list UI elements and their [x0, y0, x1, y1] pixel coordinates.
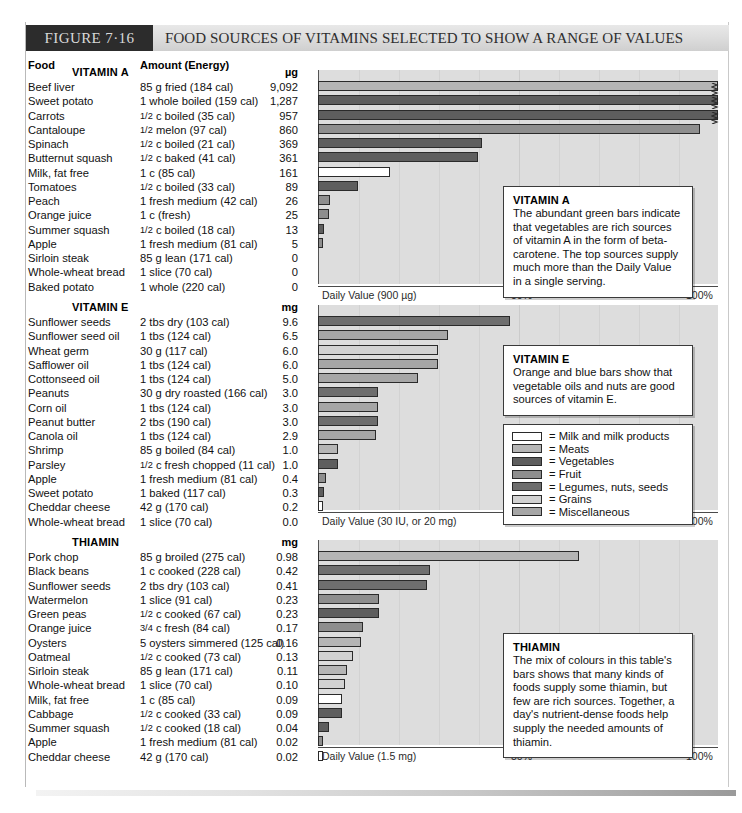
- value-bar: [318, 81, 718, 91]
- value-bar: [318, 373, 418, 383]
- food-name: Shrimp: [28, 443, 63, 457]
- figure-number-tag: FIGURE 7·16: [26, 25, 153, 51]
- food-name: Cheddar cheese: [28, 500, 110, 514]
- callout-title: THIAMIN: [513, 641, 683, 653]
- table-row: Butternut squash1/2 c baked (41 cal)361: [0, 151, 310, 165]
- food-amount: 85 g lean (171 cal): [140, 251, 233, 265]
- food-name: Milk, fat free: [28, 166, 89, 180]
- table-row: Summer squash1/2 c boiled (18 cal)13: [0, 223, 310, 237]
- table-row: Apple1 fresh medium (81 cal)0.02: [0, 735, 310, 749]
- axis-break-marker: [711, 81, 718, 91]
- food-name: Tomatoes: [28, 180, 77, 194]
- nutrient-value: 0.09: [250, 693, 298, 707]
- table-row: Whole-wheat bread1 slice (70 cal)0.0: [0, 515, 310, 529]
- nutrient-value: 0.23: [250, 607, 298, 621]
- table-row: Baked potato1 whole (220 cal)0: [0, 280, 310, 294]
- food-amount: 30 g (117 cal): [140, 344, 208, 358]
- food-name: Sirloin steak: [28, 664, 89, 678]
- callout-box: VITAMIN AThe abundant green bars indicat…: [503, 186, 693, 298]
- legend-label: = Milk and milk products: [549, 430, 669, 442]
- value-bar: [318, 195, 330, 205]
- gridline: [439, 540, 440, 745]
- legend-label: = Meats: [549, 443, 589, 455]
- section-title: THIAMIN: [72, 536, 119, 548]
- food-amount: 1 c (85 cal): [140, 166, 195, 180]
- food-amount: 1/2 c cooked (73 cal): [140, 650, 241, 664]
- legend-swatch-fruit: [512, 470, 542, 479]
- food-name: Sweet potato: [28, 94, 93, 108]
- value-bar: [318, 665, 347, 675]
- food-amount: 85 g fried (184 cal): [140, 80, 233, 94]
- nutrient-value: 0.11: [250, 664, 298, 678]
- value-bar: [318, 167, 390, 177]
- food-name: Peach: [28, 194, 60, 208]
- food-amount: 1 whole boiled (159 cal): [140, 94, 258, 108]
- food-amount: 1 tbs (124 cal): [140, 329, 211, 343]
- table-row: Sweet potato1 whole boiled (159 cal)1,28…: [0, 94, 310, 108]
- nutrient-value: 0.41: [250, 579, 298, 593]
- value-bar: [318, 608, 379, 618]
- unit-label: mg: [272, 301, 298, 313]
- table-row: Sirloin steak85 g lean (171 cal)0: [0, 251, 310, 265]
- food-name: Whole-wheat bread: [28, 265, 125, 279]
- value-bar: [318, 416, 378, 426]
- legend-item: = Milk and milk products: [512, 430, 683, 443]
- nutrient-value: 26: [250, 194, 298, 208]
- axis-daily-value-label: Daily Value (30 IU, or 20 mg): [322, 515, 457, 527]
- food-amount: 1 tbs (124 cal): [140, 429, 211, 443]
- nutrient-value: 0: [250, 280, 298, 294]
- value-bar: [318, 110, 718, 120]
- table-row: Peanuts30 g dry roasted (166 cal)3.0: [0, 386, 310, 400]
- table-row: Beef liver85 g fried (184 cal)9,092: [0, 80, 310, 94]
- food-amount: 1/2 c cooked (67 cal): [140, 607, 241, 621]
- food-amount: 1/2 c boiled (35 cal): [140, 109, 235, 123]
- value-bar: [318, 138, 482, 148]
- food-name: Sunflower seeds: [28, 579, 111, 593]
- food-amount: 1/2 melon (97 cal): [140, 123, 227, 137]
- value-bar: [318, 316, 510, 326]
- legend-item: = Meats: [512, 443, 683, 456]
- value-bar: [318, 459, 338, 469]
- table-row: Apple1 fresh medium (81 cal)0.4: [0, 472, 310, 486]
- nutrient-value: 0.10: [250, 678, 298, 692]
- food-amount: 1/2 c cooked (33 cal): [140, 707, 241, 721]
- legend-item: = Legumes, nuts, seeds: [512, 480, 683, 493]
- legend-label: = Miscellaneous: [549, 506, 630, 518]
- nutrient-value: 0.98: [250, 550, 298, 564]
- food-name: Canola oil: [28, 429, 78, 443]
- callout-title: VITAMIN E: [513, 353, 683, 365]
- table-row: Green peas1/2 c cooked (67 cal)0.23: [0, 607, 310, 621]
- nutrient-value: 0.02: [250, 750, 298, 764]
- food-name: Orange juice: [28, 208, 91, 222]
- value-bar: [318, 736, 323, 746]
- chart-legend: = Milk and milk products= Meats= Vegetab…: [503, 424, 693, 525]
- table-row: Milk, fat free1 c (85 cal)161: [0, 166, 310, 180]
- table-row: Canola oil1 tbs (124 cal)2.9: [0, 429, 310, 443]
- value-bar: [318, 238, 323, 248]
- value-bar: [318, 594, 379, 604]
- nutrient-value: 6.0: [250, 344, 298, 358]
- table-row: Wheat germ30 g (117 cal)6.0: [0, 344, 310, 358]
- table-row: Sirloin steak85 g lean (171 cal)0.11: [0, 664, 310, 678]
- legend-swatch-misc: [512, 507, 542, 516]
- value-bar: [318, 622, 363, 632]
- food-amount: 85 g boiled (84 cal): [140, 443, 235, 457]
- callout-box: THIAMINThe mix of colours in this table'…: [503, 633, 693, 758]
- value-bar: [318, 694, 342, 704]
- nutrient-value: 3.0: [250, 415, 298, 429]
- nutrient-value: 6.5: [250, 329, 298, 343]
- nutrient-value: 3.0: [250, 386, 298, 400]
- value-bar: [318, 209, 329, 219]
- nutrient-value: 0.09: [250, 707, 298, 721]
- nutrient-value: 0.02: [250, 735, 298, 749]
- table-row: Sunflower seeds2 tbs dry (103 cal)9.6: [0, 315, 310, 329]
- food-amount: 42 g (170 cal): [140, 750, 208, 764]
- value-bar: [318, 580, 427, 590]
- food-name: Safflower oil: [28, 358, 89, 372]
- nutrient-value: 0.16: [250, 636, 298, 650]
- table-row: Peanut butter2 tbs (190 cal)3.0: [0, 415, 310, 429]
- callout-text: The mix of colours in this table's bars …: [513, 654, 683, 749]
- nutrient-value: 0.04: [250, 721, 298, 735]
- food-name: Oatmeal: [28, 650, 70, 664]
- food-name: Watermelon: [28, 593, 88, 607]
